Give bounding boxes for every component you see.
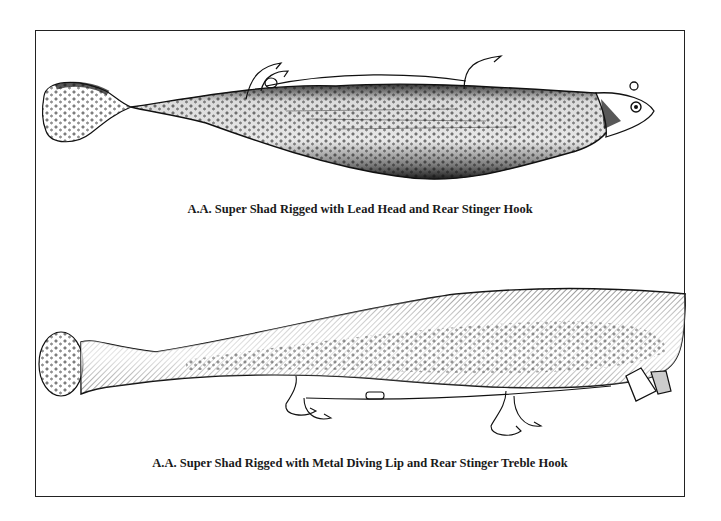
figure-2-caption: A.A. Super Shad Rigged with Metal Diving… xyxy=(36,456,684,471)
illustration-frame: A.A. Super Shad Rigged with Lead Head an… xyxy=(35,30,685,497)
fishing-lure-diving-lip-illustration xyxy=(36,276,686,446)
figure-1-caption: A.A. Super Shad Rigged with Lead Head an… xyxy=(36,202,684,217)
fishing-lure-leadhead-illustration xyxy=(36,41,686,191)
